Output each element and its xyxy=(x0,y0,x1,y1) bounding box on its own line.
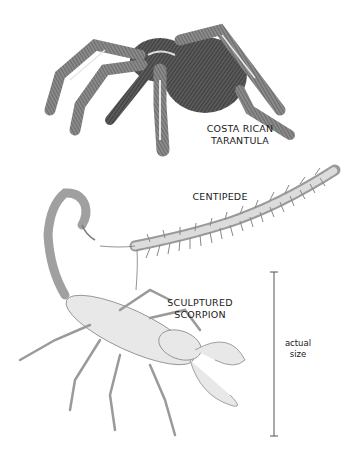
scale-bar-label: actual size xyxy=(283,338,313,360)
field-guide-plate: COSTA RICAN TARANTULA CENTIPEDE SCULPTUR… xyxy=(0,0,363,462)
scale-label-line2: size xyxy=(283,349,313,360)
scale-label-line1: actual xyxy=(283,338,313,349)
scale-bar xyxy=(0,0,363,462)
